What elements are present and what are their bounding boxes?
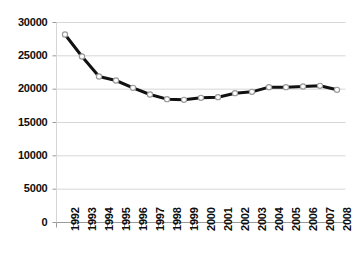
y-axis-tick-label: 5000: [0, 183, 48, 194]
y-axis-tick-label: 15000: [0, 117, 48, 128]
x-axis-tick-label: 1994: [104, 207, 115, 231]
chart-plot-area: [0, 0, 357, 272]
data-point-marker: [215, 95, 220, 100]
x-axis-tick-label: 1993: [87, 207, 98, 231]
x-axis-tick-label: 1995: [121, 207, 132, 231]
data-point-marker: [181, 97, 186, 102]
x-axis-tick-label: 2001: [223, 207, 234, 231]
data-point-marker: [300, 84, 305, 89]
data-point-marker: [96, 74, 101, 79]
data-point-marker: [79, 54, 84, 59]
x-axis-tick-label: 1999: [189, 207, 200, 231]
data-line: [65, 35, 337, 100]
data-point-marker: [62, 32, 67, 37]
x-axis-tick-label: 2000: [206, 207, 217, 231]
y-axis-tick-label: 25000: [0, 50, 48, 61]
x-axis-tick-label: 2007: [325, 207, 336, 231]
x-axis-tick-label: 2008: [342, 207, 353, 231]
x-axis-tick-label: 2003: [257, 207, 268, 231]
line-chart: 050001000015000200002500030000 199219931…: [0, 0, 357, 272]
data-point-marker: [130, 85, 135, 90]
data-point-marker: [198, 95, 203, 100]
data-point-marker: [317, 83, 322, 88]
data-point-marker: [266, 85, 271, 90]
x-axis-tick-label: 2004: [274, 207, 285, 231]
y-axis-tick-label: 20000: [0, 83, 48, 94]
x-axis-tick-label: 2002: [240, 207, 251, 231]
x-axis-tick-label: 1998: [172, 207, 183, 231]
x-axis-tick-label: 1996: [138, 207, 149, 231]
data-point-marker: [249, 89, 254, 94]
x-axis-tick-label: 1992: [70, 207, 81, 231]
data-point-marker: [164, 97, 169, 102]
y-axis-tick-label: 0: [0, 217, 48, 228]
data-point-marker: [283, 85, 288, 90]
data-point-marker: [113, 78, 118, 83]
y-axis-tick-label: 10000: [0, 150, 48, 161]
y-axis-tick-label: 30000: [0, 17, 48, 28]
x-axis-tick-label: 2005: [291, 207, 302, 231]
x-axis-tick-label: 2006: [308, 207, 319, 231]
data-point-marker: [334, 87, 339, 92]
data-point-marker: [147, 92, 152, 97]
x-axis-tick-label: 1997: [155, 207, 166, 231]
data-point-marker: [232, 91, 237, 96]
